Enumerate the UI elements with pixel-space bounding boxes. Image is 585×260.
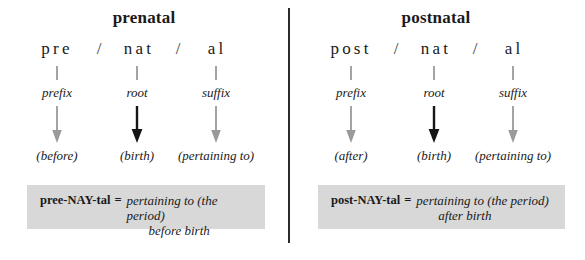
equals-sign: = — [400, 193, 416, 208]
part-label-root: root — [423, 85, 444, 101]
connector-tick-suffix — [513, 66, 514, 80]
morpheme-separator: / — [97, 39, 102, 59]
definition-line-1: pertaining to (the period) — [416, 193, 549, 208]
gloss-suffix: (pertaining to) — [178, 148, 254, 164]
definition-line-1: pertaining to (the period) — [127, 193, 218, 223]
panel-divider — [288, 8, 290, 243]
morpheme-separator: / — [473, 39, 478, 59]
part-label-root: root — [126, 85, 147, 101]
definition-line-2: after birth — [416, 208, 549, 223]
connector-tick-suffix — [216, 66, 217, 80]
morpheme-suffix: al — [208, 39, 227, 59]
definition-line-2: before birth — [127, 223, 258, 238]
panel-title: prenatal — [0, 8, 288, 28]
morpheme-separator: / — [394, 39, 399, 59]
pronunciation-key: pree-NAY-tal — [40, 193, 110, 208]
pronunciation-key: post-NAY-tal — [331, 193, 400, 208]
part-label-suffix: suffix — [202, 85, 230, 101]
morpheme-suffix: al — [505, 39, 524, 59]
definition-text: pertaining to (the period) after birth — [416, 193, 549, 223]
arrow-down-root-icon — [129, 106, 145, 144]
morpheme-separator: / — [176, 39, 181, 59]
morpheme-prefix: post — [330, 39, 371, 59]
part-label-prefix: prefix — [336, 85, 366, 101]
arrow-down-suffix-icon — [208, 106, 224, 144]
definition-box: post-NAY-tal = pertaining to (the period… — [318, 185, 565, 229]
gloss-prefix: (before) — [36, 148, 77, 164]
connector-tick-prefix — [57, 66, 58, 80]
word-analysis-diagram: prenatal pre / nat / al prefix root suff… — [0, 0, 585, 260]
morpheme-row: post / nat / al — [292, 39, 580, 63]
gloss-root: (birth) — [417, 148, 451, 164]
arrow-down-prefix-icon — [49, 106, 65, 144]
gloss-suffix: (pertaining to) — [475, 148, 551, 164]
part-label-prefix: prefix — [42, 85, 72, 101]
morpheme-root: nat — [124, 39, 154, 59]
panel-title: postnatal — [292, 8, 580, 28]
panel-postnatal: postnatal post / nat / al prefix root su… — [292, 0, 580, 260]
gloss-root: (birth) — [120, 148, 154, 164]
definition-box: pree-NAY-tal = pertaining to (the period… — [27, 185, 265, 229]
equals-sign: = — [110, 193, 126, 208]
connector-tick-root — [137, 66, 138, 80]
morpheme-row: pre / nat / al — [0, 39, 288, 63]
connector-tick-root — [434, 66, 435, 80]
arrow-down-suffix-icon — [505, 106, 521, 144]
connector-tick-prefix — [351, 66, 352, 80]
definition-text: pertaining to (the period) before birth — [127, 193, 258, 238]
arrow-down-prefix-icon — [343, 106, 359, 144]
gloss-prefix: (after) — [334, 148, 367, 164]
panel-prenatal: prenatal pre / nat / al prefix root suff… — [0, 0, 288, 260]
morpheme-root: nat — [421, 39, 451, 59]
morpheme-prefix: pre — [41, 39, 72, 59]
part-label-suffix: suffix — [499, 85, 527, 101]
arrow-down-root-icon — [426, 106, 442, 144]
